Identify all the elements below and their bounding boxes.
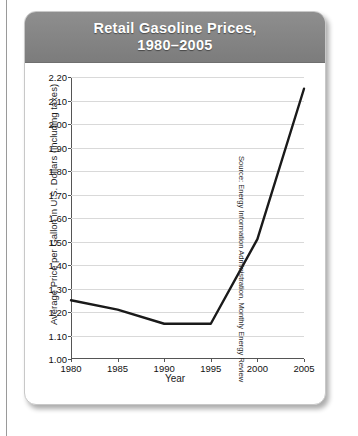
y-tick-label: 1.30: [49, 283, 68, 294]
x-tick-mark: [304, 359, 305, 362]
line-chart: Average Price per Gallon in U.S. Dollars…: [25, 63, 325, 404]
chart-card: Retail Gasoline Prices, 1980–2005 Averag…: [24, 11, 326, 405]
y-tick-label: 1.90: [49, 142, 68, 153]
chart-header: Retail Gasoline Prices, 1980–2005: [25, 12, 325, 63]
x-tick-mark: [71, 359, 72, 362]
price-series-line: [71, 77, 304, 359]
x-tick-mark: [211, 359, 212, 362]
y-tick-label: 2.20: [49, 72, 68, 83]
price-line: [71, 89, 304, 324]
y-tick-label: 2.10: [49, 95, 68, 106]
y-tick-label: 2.00: [49, 119, 68, 130]
chart-body: Average Price per Gallon in U.S. Dollars…: [25, 63, 325, 404]
y-tick-label: 1.50: [49, 236, 68, 247]
x-tick-mark: [164, 359, 165, 362]
chart-title: Retail Gasoline Prices, 1980–2005: [93, 20, 256, 53]
y-tick-label: 1.70: [49, 189, 68, 200]
y-tick-label: 1.80: [49, 166, 68, 177]
x-tick-mark: [257, 359, 258, 362]
y-tick-label: 1.40: [49, 260, 68, 271]
y-tick-label: 1.10: [49, 330, 68, 341]
y-tick-label: 1.20: [49, 307, 68, 318]
y-tick-label: 1.60: [49, 213, 68, 224]
source-credit: Source: Energy Information Administratio…: [237, 156, 246, 386]
x-axis-label: Year: [25, 373, 325, 384]
plot-area: 1.001.101.201.301.401.501.601.701.801.90…: [71, 77, 304, 359]
page-margin-rule: [6, 0, 7, 436]
x-tick-mark: [118, 359, 119, 362]
